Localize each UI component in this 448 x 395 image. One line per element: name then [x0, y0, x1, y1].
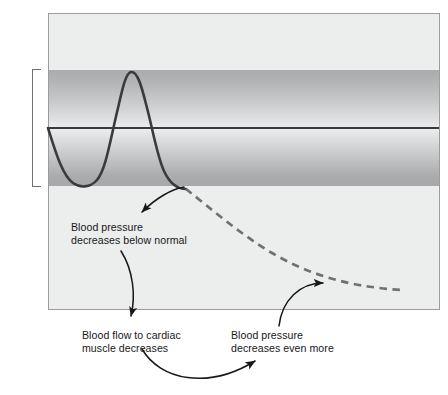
caption-blood-flow-to-cardiac-muscle-decreases: Blood flow to cardiac muscle decreases: [82, 329, 181, 354]
caption-bp-decreases-even-more: Blood pressure decreases even more: [231, 329, 334, 354]
normal-range-bracket: [32, 69, 41, 187]
normal-reference-line: [49, 127, 439, 129]
blood-pressure-feedback-diagram: Normal range Blood pressure decreases be…: [0, 0, 448, 395]
caption-bp-decreases-below-normal: Blood pressure decreases below normal: [71, 221, 187, 246]
